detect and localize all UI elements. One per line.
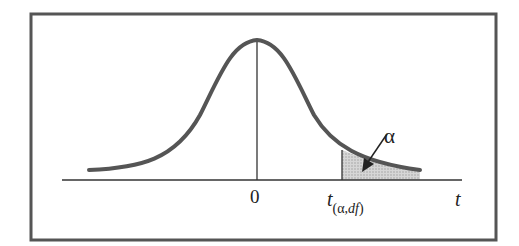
x-axis-label: t — [455, 188, 461, 211]
critical-value-label: t(α,df) — [327, 188, 364, 211]
shaded-tail-region — [342, 150, 420, 180]
center-label: 0 — [250, 186, 260, 208]
t-distribution-diagram — [0, 0, 519, 246]
alpha-label: α — [384, 124, 395, 149]
density-curve — [89, 40, 420, 170]
subscript-close: ) — [359, 201, 364, 216]
subscript-df: df — [348, 201, 359, 216]
critical-value-subscript: (α,df) — [333, 201, 364, 216]
figure-frame — [31, 14, 496, 240]
subscript-open: (α, — [333, 201, 349, 216]
